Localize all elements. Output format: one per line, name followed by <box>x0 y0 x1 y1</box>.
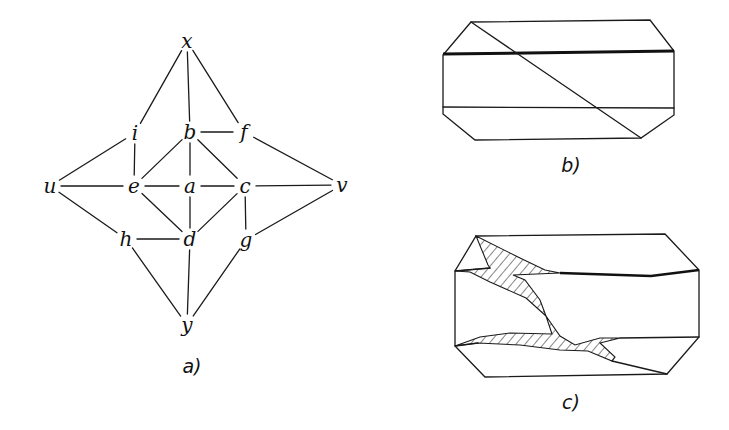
edge-b-c <box>198 140 237 179</box>
edge-x-i <box>140 51 181 124</box>
edge-x-f <box>193 50 238 122</box>
figure-b-outline <box>443 20 674 140</box>
node-a: a <box>184 174 196 198</box>
node-e: e <box>128 174 140 198</box>
edge-c-d <box>198 194 237 232</box>
edge-x-b <box>187 52 189 121</box>
edge-u-h <box>59 192 117 232</box>
edge-v-g <box>256 190 333 234</box>
polygon-figure-c: c) <box>455 234 699 413</box>
edge-i-e <box>134 144 135 175</box>
edge-i-u <box>59 139 125 180</box>
node-y: y <box>180 313 193 337</box>
edge-h-y <box>132 248 180 316</box>
figure-c-lower-diagonal <box>612 361 667 374</box>
graph-nodes: xibfueacvhdgy <box>44 29 349 337</box>
node-v: v <box>336 173 348 197</box>
figure-b-caption: b) <box>561 154 580 176</box>
node-g: g <box>240 228 253 252</box>
node-x: x <box>181 29 192 53</box>
figure-c-hatched-region-upper <box>455 236 560 316</box>
graph-figure-a: xibfueacvhdgy a) <box>44 29 349 377</box>
figure-a-caption: a) <box>182 355 201 377</box>
figure-c-lower-line <box>620 337 699 338</box>
node-c: c <box>239 174 250 198</box>
edge-d-y <box>187 250 189 314</box>
edge-e-d <box>142 194 182 232</box>
diagram-canvas: xibfueacvhdgy a) b) c) <box>0 0 729 430</box>
polygon-figure-b: b) <box>443 20 674 176</box>
figure-b-thick-line <box>443 51 674 54</box>
edge-b-e <box>142 140 182 179</box>
node-u: u <box>44 174 57 198</box>
edge-f-v <box>254 137 333 180</box>
node-f: f <box>238 120 251 144</box>
node-h: h <box>120 227 133 251</box>
figure-c-thick-line <box>560 270 699 276</box>
figure-b-lower-line <box>443 107 674 108</box>
edge-c-g <box>245 197 246 229</box>
figure-c-hatched-region-lower <box>455 316 620 361</box>
node-i: i <box>132 121 138 145</box>
edge-g-y <box>193 249 239 316</box>
node-b: b <box>184 120 197 144</box>
figure-c-caption: c) <box>562 391 580 413</box>
edge-c-v <box>256 185 331 186</box>
figure-b-diagonal <box>471 22 641 138</box>
node-d: d <box>184 227 197 251</box>
